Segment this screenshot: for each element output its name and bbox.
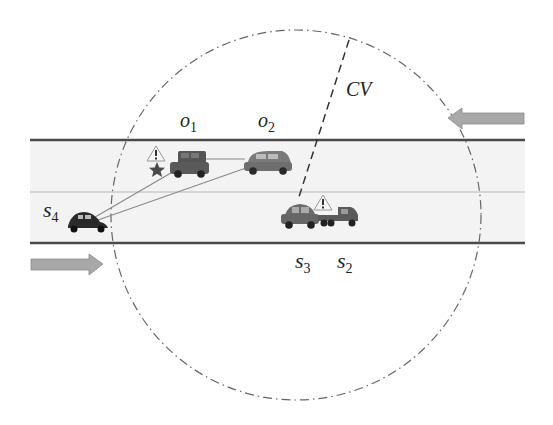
label-s2: s2 [337, 248, 353, 276]
arrow-right-icon [31, 254, 103, 275]
label-o2: o2 [258, 109, 275, 135]
traffic-diagram: o1 o2 CV s4 s3 s2 [0, 0, 553, 425]
label-o1: o1 [180, 109, 197, 135]
label-s3: s3 [295, 248, 311, 276]
arrow-left-icon [448, 108, 524, 129]
label-cv: CV [346, 78, 374, 100]
